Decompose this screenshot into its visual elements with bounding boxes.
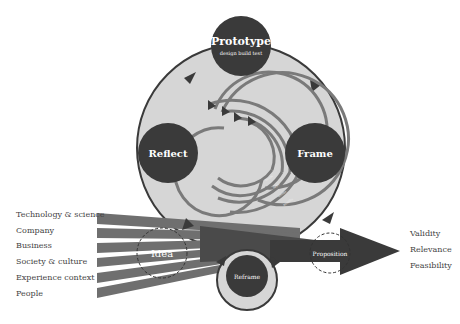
input-label: Business	[16, 241, 52, 250]
idea-title: Idea	[151, 248, 173, 259]
prototype-title: Prototype	[211, 35, 271, 48]
output-label: Validity	[410, 229, 440, 238]
input-label: Technology & science	[16, 210, 105, 219]
reframe-title: Reframe	[234, 273, 260, 280]
input-label: People	[16, 289, 43, 298]
reflect-title: Reflect	[148, 148, 187, 159]
proposition-title: Proposition	[313, 250, 348, 257]
input-label: Company	[16, 226, 54, 235]
prototype-subtitle: design build test	[220, 50, 262, 56]
frame-title: Frame	[297, 148, 333, 159]
output-label: Relevance	[410, 245, 452, 254]
output-label: Feasibility	[410, 261, 452, 270]
input-label: Society & culture	[16, 257, 87, 266]
input-label: Experience context	[16, 273, 94, 282]
